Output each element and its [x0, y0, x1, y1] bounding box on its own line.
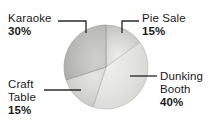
pie-chart: Karaoke 30% Pie Sale 15% Craft Table 15%…	[0, 0, 219, 125]
slice-label-craft-table: Craft Table 15%	[8, 78, 36, 117]
slice-label-pie-sale-name: Pie Sale	[142, 12, 186, 25]
slice-label-karaoke-percent: 30%	[8, 25, 52, 38]
slice-label-dunking-booth-name-line2: Booth	[160, 83, 203, 96]
slice-label-craft-table-name-line2: Table	[8, 91, 36, 104]
slice-label-pie-sale-percent: 15%	[142, 25, 186, 38]
slice-label-karaoke: Karaoke 30%	[8, 12, 52, 38]
leader-line-karaoke	[58, 21, 86, 33]
slice-label-dunking-booth-percent: 40%	[160, 96, 203, 109]
slice-label-dunking-booth-name-line1: Dunking	[160, 70, 203, 83]
slice-label-pie-sale: Pie Sale 15%	[142, 12, 186, 38]
slice-label-craft-table-percent: 15%	[8, 104, 36, 117]
slice-label-craft-table-name-line1: Craft	[8, 78, 36, 91]
slice-label-karaoke-name: Karaoke	[8, 12, 52, 25]
slice-label-dunking-booth: Dunking Booth 40%	[160, 70, 203, 109]
